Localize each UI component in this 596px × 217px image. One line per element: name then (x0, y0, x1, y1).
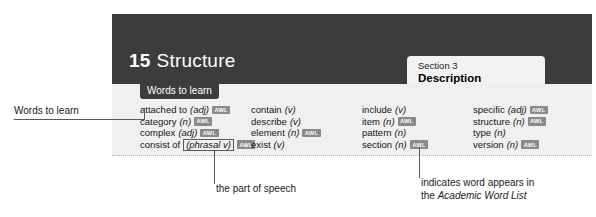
awl-badge: AWL (200, 129, 218, 137)
annotation-awl: indicates word appears in the Academic W… (421, 176, 591, 202)
word-entry: attached to(adj)AWL (140, 104, 251, 116)
word-term: category (140, 116, 176, 128)
word-entry: include(v) (362, 104, 473, 116)
word-term: complex (140, 127, 175, 139)
leader-line-part-of-speech (214, 150, 215, 184)
word-entry: type(n) (473, 127, 584, 139)
word-term: section (362, 139, 392, 151)
word-entry: item(n)AWL (362, 116, 473, 128)
word-entry: section(n)AWL (362, 139, 473, 151)
word-term: type (473, 127, 491, 139)
awl-badge: AWL (528, 117, 546, 125)
word-term: structure (473, 116, 510, 128)
word-term: describe (251, 116, 287, 128)
word-term: specific (473, 104, 505, 116)
words-to-learn-panel: Words to learn attached to(adj)AWLcatego… (112, 84, 592, 156)
word-entry: version(n)AWL (473, 139, 584, 151)
part-of-speech: (v) (395, 104, 406, 116)
word-column: contain(v)describe(v)element(n)AWLexist(… (251, 104, 362, 150)
word-entry: describe(v) (251, 116, 362, 128)
word-term: contain (251, 104, 282, 116)
words-to-learn-tab: Words to learn (140, 83, 219, 99)
leader-line-awl (419, 148, 420, 178)
awl-badge: AWL (530, 106, 548, 114)
part-of-speech: (n) (395, 127, 407, 139)
unit-number: 15 (129, 50, 151, 71)
word-term: element (251, 127, 285, 139)
word-entry: structure(n)AWL (473, 116, 584, 128)
part-of-speech: (adj) (190, 104, 209, 116)
awl-badge: AWL (194, 117, 212, 125)
word-entry: element(n)AWL (251, 127, 362, 139)
word-entry: exist(v) (251, 139, 362, 151)
word-entry: specific(adj)AWL (473, 104, 584, 116)
word-entry: complex(adj)AWL (140, 127, 251, 139)
annotation-awl-line2-prefix: the (421, 190, 438, 201)
part-of-speech: (n) (494, 127, 506, 139)
word-list-columns: attached to(adj)AWLcategory(n)AWLcomplex… (140, 104, 586, 150)
part-of-speech: (v) (290, 116, 301, 128)
part-of-speech: (n) (288, 127, 300, 139)
word-term: consist of (140, 139, 180, 151)
part-of-speech-boxed: (phrasal v) (183, 139, 234, 151)
word-entry: contain(v) (251, 104, 362, 116)
awl-badge: AWL (521, 140, 539, 148)
word-column: include(v)item(n)AWLpattern(n)section(n)… (362, 104, 473, 150)
leader-line-words-horizontal (14, 119, 145, 120)
leader-line-words-vertical (144, 108, 145, 120)
annotation-words-to-learn: Words to learn (14, 104, 79, 117)
annotation-awl-line1: indicates word appears in (421, 177, 534, 188)
word-term: version (473, 139, 504, 151)
word-term: exist (251, 139, 271, 151)
part-of-speech: (adj) (178, 127, 197, 139)
word-entry: pattern(n) (362, 127, 473, 139)
word-column: specific(adj)AWLstructure(n)AWLtype(n)ve… (473, 104, 584, 150)
awl-badge: AWL (398, 117, 416, 125)
word-entry: category(n)AWL (140, 116, 251, 128)
textbook-page-panel: 15Structure Section 3 Description Words … (112, 14, 592, 156)
word-term: item (362, 116, 380, 128)
part-of-speech: (n) (513, 116, 525, 128)
annotation-part-of-speech: the part of speech (216, 182, 296, 195)
word-term: attached to (140, 104, 187, 116)
part-of-speech: (adj) (508, 104, 527, 116)
part-of-speech: (n) (507, 139, 519, 151)
word-term: include (362, 104, 392, 116)
part-of-speech: (n) (179, 116, 191, 128)
word-column: attached to(adj)AWLcategory(n)AWLcomplex… (140, 104, 251, 150)
annotation-awl-line2-italic: Academic Word List (438, 190, 527, 201)
part-of-speech: (n) (383, 116, 395, 128)
awl-badge: AWL (212, 106, 230, 114)
unit-name: Structure (157, 50, 236, 71)
awl-badge: AWL (302, 129, 320, 137)
word-entry: consist of(phrasal v)AWL (140, 139, 251, 151)
page-title: 15Structure (129, 50, 235, 72)
word-term: pattern (362, 127, 392, 139)
part-of-speech: (v) (285, 104, 296, 116)
part-of-speech: (v) (274, 139, 285, 151)
part-of-speech: (n) (395, 139, 407, 151)
section-tab-label: Section 3 (418, 60, 458, 71)
section-tab-title: Description (418, 72, 481, 84)
